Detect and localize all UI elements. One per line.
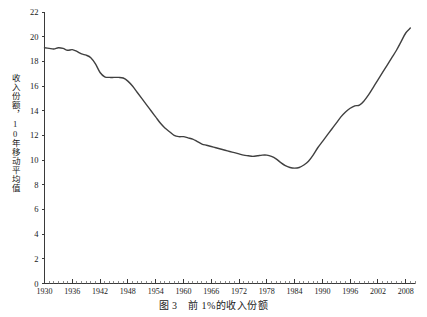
x-tick-label: 1984 bbox=[287, 287, 303, 296]
y-tick-label: 14 bbox=[30, 106, 39, 116]
x-tick-label: 1954 bbox=[148, 287, 164, 296]
y-tick-label: 18 bbox=[30, 56, 39, 66]
y-tick-label: 22 bbox=[30, 7, 39, 17]
y-tick-label: 2 bbox=[34, 254, 38, 264]
x-tick-label: 1930 bbox=[37, 287, 53, 296]
x-tick-label: 1978 bbox=[259, 287, 275, 296]
x-tick-label: 1936 bbox=[64, 287, 80, 296]
y-tick-label: 16 bbox=[30, 81, 39, 91]
y-tick-label: 20 bbox=[30, 32, 39, 42]
y-tick-label: 12 bbox=[30, 130, 39, 140]
x-tick-label: 1972 bbox=[231, 287, 247, 296]
x-tick-label: 1948 bbox=[120, 287, 136, 296]
x-tick-label: 1990 bbox=[314, 287, 330, 296]
y-tick-label: 8 bbox=[34, 180, 38, 190]
y-ticks-group: 0246810121416182022 bbox=[30, 7, 45, 289]
axes-group bbox=[45, 12, 416, 284]
y-tick-label: 4 bbox=[34, 229, 39, 239]
income-share-line-chart: 0246810121416182022 19301936194219481954… bbox=[0, 0, 427, 317]
figure-caption: 图 3 前 1%的收入份额 bbox=[0, 297, 427, 312]
figure-container: 收入份额，10年移动平均值 0246810121416182022 193019… bbox=[0, 0, 427, 317]
x-tick-label: 1942 bbox=[92, 287, 108, 296]
x-tick-label: 2008 bbox=[398, 287, 414, 296]
x-tick-label: 1966 bbox=[203, 287, 219, 296]
x-tick-label: 2002 bbox=[370, 287, 386, 296]
y-tick-label: 6 bbox=[34, 204, 38, 214]
x-tick-label: 1996 bbox=[342, 287, 358, 296]
y-tick-label: 10 bbox=[30, 155, 39, 165]
income-share-data-line bbox=[45, 28, 411, 168]
x-tick-label: 1960 bbox=[175, 287, 191, 296]
